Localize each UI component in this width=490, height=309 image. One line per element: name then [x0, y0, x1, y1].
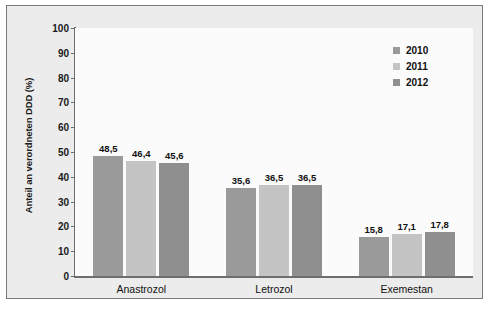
legend-label: 2011 [406, 62, 428, 72]
bar-anastrozol-2010 [93, 156, 123, 276]
legend-item-2011: 2011 [393, 60, 428, 73]
bar-exemestan-2011 [392, 234, 422, 276]
legend-item-2010: 2010 [393, 44, 428, 57]
legend-label: 2012 [406, 78, 428, 88]
y-axis-tick-label: 80 [7, 72, 69, 83]
figure-frame: Anteil an verordneten DDD (%) 0102030405… [6, 5, 483, 299]
category-label-exemestan: Exemestan [380, 283, 433, 295]
y-axis-tick-label: 0 [7, 271, 69, 282]
y-axis-tick-label: 20 [7, 221, 69, 232]
y-axis-tick-label: 90 [7, 47, 69, 58]
y-axis-tick-label: 70 [7, 97, 69, 108]
category-label-anastrozol: Anastrozol [117, 283, 167, 295]
legend-swatch-icon [393, 47, 400, 54]
x-axis-line [74, 276, 473, 278]
chart-legend: 201020112012 [393, 44, 428, 92]
y-axis-tick-label: 50 [7, 147, 69, 158]
y-axis-tick-label: 10 [7, 246, 69, 257]
bar-value-label: 17,8 [430, 219, 449, 230]
bar-anastrozol-2011 [126, 161, 156, 276]
bar-anastrozol-2012 [159, 163, 189, 276]
bar-value-label: 17,1 [397, 221, 416, 232]
chart-screenshot: Anteil an verordneten DDD (%) 0102030405… [0, 0, 490, 309]
bar-value-label: 36,5 [298, 172, 317, 183]
y-axis-tick-label: 40 [7, 171, 69, 182]
category-label-letrozol: Letrozol [255, 283, 292, 295]
bar-value-label: 45,6 [165, 150, 184, 161]
bar-letrozol-2011 [259, 185, 289, 276]
bar-value-label: 35,6 [232, 175, 251, 186]
y-axis-tick-label: 30 [7, 196, 69, 207]
y-axis-tick-label: 60 [7, 122, 69, 133]
legend-label: 2010 [406, 46, 428, 56]
y-axis-tick-label: 100 [7, 23, 69, 34]
legend-item-2012: 2012 [393, 76, 428, 89]
bar-value-label: 36,5 [265, 172, 284, 183]
bar-letrozol-2010 [226, 188, 256, 276]
bar-value-label: 46,4 [132, 148, 151, 159]
bar-exemestan-2010 [359, 237, 389, 276]
bar-letrozol-2012 [292, 185, 322, 276]
legend-swatch-icon [393, 79, 400, 86]
bar-exemestan-2012 [425, 232, 455, 276]
bar-value-label: 48,5 [99, 143, 118, 154]
legend-swatch-icon [393, 63, 400, 70]
bar-value-label: 15,8 [364, 224, 383, 235]
